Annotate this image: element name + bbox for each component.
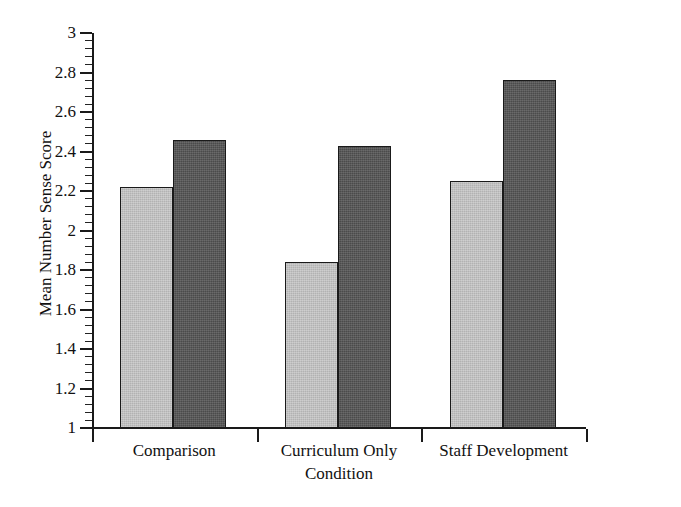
bar-dark-series-curriculum-only (338, 146, 391, 428)
y-minor-tick-mark (85, 301, 92, 302)
y-tick-mark (80, 230, 92, 232)
y-tick-label-wrap: 1.2 (0, 380, 76, 397)
y-minor-tick-mark (85, 364, 92, 365)
y-tick-mark (80, 190, 92, 192)
y-axis-line (92, 33, 94, 429)
y-minor-tick-mark (85, 40, 92, 41)
y-tick-mark (80, 269, 92, 271)
y-minor-tick-mark (85, 80, 92, 81)
y-tick-label: 3 (0, 24, 76, 41)
y-tick-label-wrap: 2 (0, 222, 76, 239)
bar-light-series-curriculum-only (285, 262, 338, 428)
y-minor-tick-mark (85, 325, 92, 326)
y-tick-label-wrap: 2.2 (0, 182, 76, 199)
y-tick-label: 1.6 (0, 301, 76, 318)
y-tick-label-wrap: 2.6 (0, 103, 76, 120)
y-minor-tick-mark (85, 262, 92, 263)
y-minor-tick-mark (85, 56, 92, 57)
y-tick-label: 2.8 (0, 64, 76, 81)
y-minor-tick-mark (85, 293, 92, 294)
y-minor-tick-mark (85, 104, 92, 105)
y-minor-tick-mark (85, 238, 92, 239)
y-minor-tick-mark (85, 88, 92, 89)
y-minor-tick-mark (85, 135, 92, 136)
y-tick-label-wrap: 1 (0, 419, 76, 436)
y-minor-tick-mark (85, 341, 92, 342)
y-minor-tick-mark (85, 317, 92, 318)
x-tick-mark (586, 429, 588, 442)
y-tick-label: 1.4 (0, 340, 76, 357)
y-minor-tick-mark (85, 127, 92, 128)
y-minor-tick-mark (85, 198, 92, 199)
y-tick-label: 2 (0, 222, 76, 239)
y-minor-tick-mark (85, 396, 92, 397)
y-minor-tick-mark (85, 380, 92, 381)
y-tick-label: 1.8 (0, 261, 76, 278)
y-tick-label: 2.6 (0, 103, 76, 120)
y-minor-tick-mark (85, 404, 92, 405)
y-minor-tick-mark (85, 214, 92, 215)
y-tick-mark (80, 427, 92, 429)
y-tick-label-wrap: 2.4 (0, 143, 76, 160)
y-minor-tick-mark (85, 143, 92, 144)
y-minor-tick-mark (85, 222, 92, 223)
y-minor-tick-mark (85, 356, 92, 357)
y-minor-tick-mark (85, 96, 92, 97)
y-tick-label-wrap: 1.6 (0, 301, 76, 318)
y-tick-mark (80, 32, 92, 34)
y-tick-label: 1 (0, 419, 76, 436)
y-tick-label: 1.2 (0, 380, 76, 397)
y-minor-tick-mark (85, 277, 92, 278)
y-tick-mark (80, 111, 92, 113)
y-minor-tick-mark (85, 246, 92, 247)
y-minor-tick-mark (85, 333, 92, 334)
y-minor-tick-mark (85, 48, 92, 49)
bar-light-series-comparison (120, 187, 173, 428)
x-tick-label: Curriculum Only (257, 440, 422, 461)
y-tick-mark (80, 348, 92, 350)
y-minor-tick-mark (85, 372, 92, 373)
bar-dark-series-staff-development (503, 80, 556, 428)
y-minor-tick-mark (85, 420, 92, 421)
y-tick-label-wrap: 2.8 (0, 64, 76, 81)
x-axis-title: Condition (92, 464, 586, 484)
x-axis-line (92, 427, 586, 429)
y-tick-mark (80, 72, 92, 74)
y-tick-mark (80, 151, 92, 153)
y-tick-label-wrap: 3 (0, 24, 76, 41)
bar-dark-series-comparison (173, 140, 226, 428)
y-minor-tick-mark (85, 167, 92, 168)
bar-chart-figure: Mean Number Sense Score 11.21.41.61.822.… (0, 0, 681, 507)
y-tick-label-wrap: 1.8 (0, 261, 76, 278)
x-tick-label: Staff Development (421, 440, 586, 461)
y-minor-tick-mark (85, 412, 92, 413)
y-tick-mark (80, 309, 92, 311)
y-minor-tick-mark (85, 119, 92, 120)
bar-light-series-staff-development (450, 181, 503, 428)
y-tick-label-wrap: 1.4 (0, 340, 76, 357)
y-minor-tick-mark (85, 206, 92, 207)
y-minor-tick-mark (85, 175, 92, 176)
y-tick-label: 2.2 (0, 182, 76, 199)
x-tick-label: Comparison (92, 440, 257, 461)
y-minor-tick-mark (85, 64, 92, 65)
y-minor-tick-mark (85, 285, 92, 286)
y-tick-mark (80, 388, 92, 390)
y-tick-label: 2.4 (0, 143, 76, 160)
y-minor-tick-mark (85, 159, 92, 160)
y-minor-tick-mark (85, 183, 92, 184)
y-minor-tick-mark (85, 254, 92, 255)
